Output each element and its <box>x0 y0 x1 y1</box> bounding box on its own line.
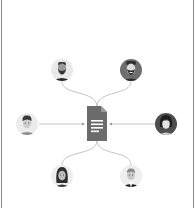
connector-top-left <box>62 81 97 106</box>
older-man-suit-avatar-icon[interactable] <box>120 165 142 188</box>
connector-bottom-left <box>62 141 97 165</box>
connector-top-right <box>97 81 131 106</box>
bearded-man-dark-avatar-icon[interactable] <box>120 59 142 82</box>
woman-dark-hair-avatar-icon[interactable] <box>155 113 177 136</box>
young-man-avatar-icon[interactable] <box>16 113 38 136</box>
arrow-left-icon <box>82 123 85 126</box>
arrow-right-icon <box>109 123 112 126</box>
diagram-frame: Shared document collaboration Shared doc… <box>0 0 195 208</box>
woman-long-hair-avatar-icon[interactable] <box>51 165 73 188</box>
collaboration-diagram <box>0 0 195 208</box>
connector-bottom-right <box>97 141 131 165</box>
document-icon[interactable] <box>87 106 107 141</box>
bearded-man-avatar-icon[interactable] <box>51 59 73 82</box>
